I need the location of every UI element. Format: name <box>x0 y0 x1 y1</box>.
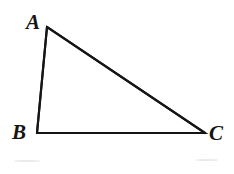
vertex-label-a: A <box>26 12 40 33</box>
vertex-label-b: B <box>12 122 26 143</box>
scan-artifact-left <box>14 160 40 162</box>
triangle-figure: A B C <box>0 0 234 174</box>
scan-artifact-right <box>196 159 218 161</box>
edge-ca <box>47 27 205 133</box>
edge-ab <box>37 27 47 133</box>
vertex-label-c: C <box>209 123 223 144</box>
